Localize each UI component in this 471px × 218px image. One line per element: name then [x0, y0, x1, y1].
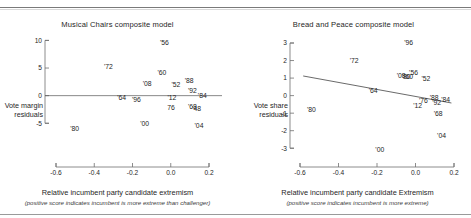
x-axis-tick-label: 0.0 [411, 169, 420, 176]
x-axis-tick-label: 0.0 [166, 169, 175, 176]
y-axis-tick-label: 5 [38, 64, 42, 71]
y-axis-tick-label: 1 [283, 74, 287, 81]
data-point-label: '80 [307, 106, 316, 113]
x-axis-tick-label: 0.2 [449, 169, 458, 176]
data-point-label: '08 [143, 80, 152, 87]
data-point-label: '84 [198, 92, 207, 99]
panel-left-plot: 1050-5-0.6-0.4-0.20.00.2'56'72'60'88'08'… [0, 10, 235, 210]
x-axis-tick-label: 0.2 [204, 169, 213, 176]
y-axis-tick-label: 0 [283, 92, 287, 99]
data-point-label: '80 [70, 125, 79, 132]
y-axis-tick-label: -3 [281, 145, 287, 152]
panel-right-plot: 3210-1-2-3-0.6-0.4-0.20.00.2'96'72'56'08… [236, 10, 471, 210]
data-point-label: '48 [192, 105, 201, 112]
y-axis-tick-label: 0 [38, 92, 42, 99]
data-point-label: '64 [369, 87, 378, 94]
data-point-label: '64 [117, 94, 126, 101]
data-point-label: '52 [172, 81, 181, 88]
data-point-label: '00 [140, 120, 149, 127]
data-point-label: '96 [132, 96, 141, 103]
y-axis-tick-label: 10 [35, 37, 43, 44]
data-point-label: '12 [167, 94, 176, 101]
data-point-label: '72 [104, 63, 113, 70]
y-axis-tick-label: -2 [281, 127, 287, 134]
data-point-label: '00 [375, 146, 384, 153]
data-point-label: '84 [441, 96, 450, 103]
y-axis-spine [45, 40, 49, 123]
y-axis-tick-label: 2 [283, 57, 287, 64]
figure-canvas: Musical Chairs composite model Vote marg… [0, 0, 471, 218]
panel-bread-and-peace: Bread and Peace composite model Vote sha… [236, 10, 471, 210]
x-axis-tick-label: -0.4 [89, 169, 101, 176]
data-point-label: 76 [167, 104, 175, 111]
data-point-label: '04 [195, 122, 204, 129]
y-axis-tick-label: -1 [281, 110, 287, 117]
x-axis-tick-label: -0.2 [127, 169, 139, 176]
panel-left-x-axis-note: (positive score indicates incumbent is m… [0, 199, 235, 206]
data-point-label: '96 [404, 39, 413, 46]
x-axis-tick-label: -0.2 [371, 169, 383, 176]
data-point-label: '52 [421, 75, 430, 82]
panel-musical-chairs: Musical Chairs composite model Vote marg… [0, 10, 235, 210]
data-point-label: '92 [188, 87, 197, 94]
data-point-label: '04 [437, 132, 446, 139]
x-axis-tick-label: -0.6 [50, 169, 62, 176]
x-axis-tick-label: -0.4 [333, 169, 345, 176]
panel-right-x-axis-note: (positive score indicates incumbent is m… [240, 199, 471, 206]
data-point-label: '12 [413, 102, 422, 109]
data-point-label: '68 [434, 110, 443, 117]
data-point-label: '72 [350, 57, 359, 64]
y-axis-tick-label: 3 [283, 39, 287, 46]
panel-left-x-axis-label: Relative incumbent party candidate extre… [0, 188, 235, 197]
data-point-label: '60 [158, 69, 167, 76]
data-point-label: '56 [160, 39, 169, 46]
data-point-label: '92 [432, 99, 441, 106]
y-axis-tick-label: -5 [36, 120, 42, 127]
data-point-label: '88 [185, 77, 194, 84]
panel-right-x-axis-label: Relative incumbent party candidate Extre… [240, 188, 471, 197]
x-axis-tick-label: -0.6 [294, 169, 306, 176]
bottom-horizontal-rule [0, 214, 471, 215]
data-point-label: '80 [402, 73, 411, 80]
top-horizontal-rule [0, 7, 471, 8]
